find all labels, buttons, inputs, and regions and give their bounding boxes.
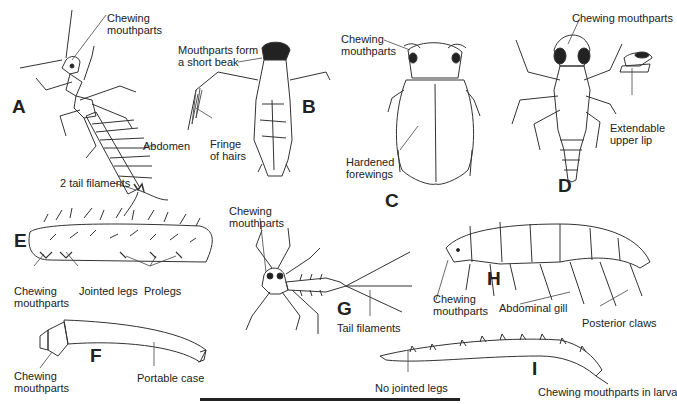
figure-letter-a: A xyxy=(12,96,26,118)
label-a-chewing-mouthparts: Chewing mouthparts xyxy=(107,12,162,36)
figure-g-drawing xyxy=(246,228,412,334)
bottom-rule xyxy=(200,398,460,401)
figure-e-drawing xyxy=(29,208,212,262)
figure-letter-e: E xyxy=(14,230,27,252)
figure-f-drawing xyxy=(40,320,206,362)
figure-letter-d: D xyxy=(558,175,572,197)
label-g-tail-filaments: Tail filaments xyxy=(337,322,401,334)
figure-letter-c: C xyxy=(385,190,399,212)
label-c-chewing-mouthparts: Chewing mouthparts xyxy=(341,33,396,57)
label-h-chewing-mouthparts: Chewing mouthparts xyxy=(433,293,488,317)
figure-letter-b: B xyxy=(302,96,316,118)
label-f-chewing-mouthparts: Chewing mouthparts xyxy=(14,370,69,394)
label-i-no-jointed-legs: No jointed legs xyxy=(375,382,448,394)
label-d-extendable-upper-lip: Extendable upper lip xyxy=(610,122,665,146)
label-c-hardened-forewings: Hardened forewings xyxy=(346,156,394,180)
leader-lines xyxy=(34,15,632,372)
label-d-chewing-mouthparts: Chewing mouthparts xyxy=(572,12,673,24)
figure-i-drawing xyxy=(380,334,608,384)
figure-letter-h: H xyxy=(487,268,501,290)
label-e-chewing-mouthparts: Chewing mouthparts xyxy=(14,285,69,309)
label-e-prolegs: Prolegs xyxy=(144,285,181,297)
label-e-jointed-legs: Jointed legs xyxy=(79,285,138,297)
label-h-abdominal-gill: Abdominal gill xyxy=(499,302,567,314)
figure-d-drawing xyxy=(512,35,652,182)
figure-letter-i: I xyxy=(532,358,537,380)
label-g-chewing-mouthparts: Chewing mouthparts xyxy=(229,205,284,229)
figure-letter-f: F xyxy=(90,345,102,367)
figure-c-drawing xyxy=(388,43,480,185)
label-a-abdomen: Abdomen xyxy=(143,140,190,152)
label-b-short-beak: Mouthparts form a short beak xyxy=(178,44,258,68)
label-f-portable-case: Portable case xyxy=(137,372,204,384)
label-i-chewing-mouthparts-larva: Chewing mouthparts in larva xyxy=(538,386,677,398)
figure-letter-g: G xyxy=(337,298,352,320)
label-a-tail-filaments: 2 tail filaments xyxy=(60,177,130,189)
label-b-fringe-of-hairs: Fringe of hairs xyxy=(210,138,246,162)
label-h-posterior-claws: Posterior claws xyxy=(582,317,657,329)
